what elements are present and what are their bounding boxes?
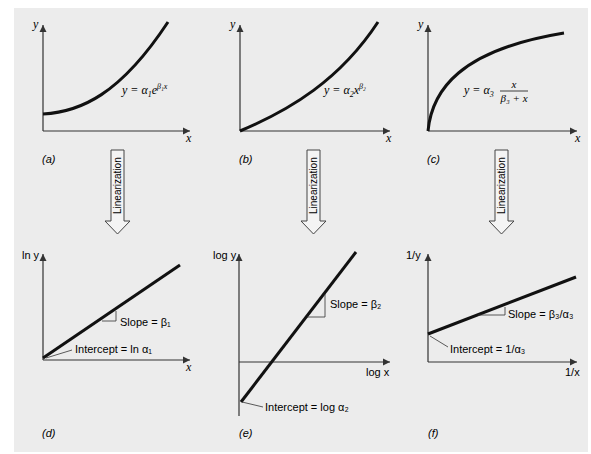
x-axis-label: x [185,360,192,374]
arrow-label: Linearization [308,157,319,214]
panel-label: (d) [42,427,56,439]
intercept-label: Intercept = log α₂ [265,401,349,413]
arrow-label: Linearization [112,157,123,214]
saturation-curve [428,33,564,131]
panel-label: (c) [427,153,440,165]
y-axis-label: y [32,17,39,31]
intercept-leader [242,402,263,407]
panel-label: (f) [428,427,439,439]
slope-label: Slope = β₃/α₃ [508,308,573,320]
y-axis-label: ln y [22,249,40,261]
linearization-arrow-c: Linearization [489,150,514,234]
x-axis-label: x [574,131,581,145]
panel-c: y x y = α3 x β₃ + x (c) [417,17,581,165]
equation-label: y = α3 [463,83,494,99]
x-axis-label: 1/x [565,366,580,378]
exponential-curve [43,22,168,114]
equation-numerator: x [511,78,517,90]
panel-label: (b) [239,153,253,165]
x-axis-label: log x [366,366,390,378]
panel-label: (e) [239,427,253,439]
linearization-arrow-a: Linearization [105,150,130,234]
x-axis-label: x [385,131,392,145]
arrow-label: Linearization [496,157,507,214]
y-axis-label: log y [213,249,237,261]
power-curve [240,22,378,131]
intercept-label: Intercept = ln α₁ [75,343,152,355]
linearization-arrow-b: Linearization [301,150,326,234]
slope-label: Slope = β₁ [120,316,171,328]
y-axis-label: 1/y [406,249,421,261]
panel-e: log y log x Slope = β₂ Intercept = log α… [213,249,390,439]
linearization-figure: y x y = α1eβ₁x (a) y x y = α2xβ₂ (b) y x… [0,0,591,454]
linear-fit-line [241,252,356,402]
equation-denominator: β₃ + x [499,92,527,104]
y-axis-label: y [417,17,424,31]
panel-b: y x y = α2xβ₂ (b) [229,17,392,165]
intercept-leader [430,336,448,347]
y-axis-label: y [229,17,236,31]
panel-a: y x y = α1eβ₁x (a) [32,17,192,165]
panel-label: (a) [42,153,56,165]
equation-label: y = α1eβ₁x [121,82,168,99]
x-axis-label: x [185,131,192,145]
slope-label: Slope = β₂ [330,298,381,310]
intercept-label: Intercept = 1/α₃ [450,343,525,355]
linear-fit-line [428,277,576,334]
panel-d: ln y x Slope = β₁ Intercept = ln α₁ (d) [22,249,192,439]
panel-f: 1/y 1/x Slope = β₃/α₃ Intercept = 1/α₃ (… [406,249,580,439]
equation-label: y = α2xβ₂ [323,82,366,99]
